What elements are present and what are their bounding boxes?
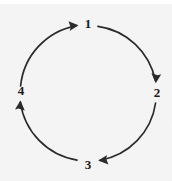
arc-2-to-3: [100, 103, 156, 160]
arc-1-to-2: [98, 26, 155, 80]
arrowhead-to-3-icon: [98, 155, 108, 165]
stage-label-2: 2: [150, 86, 164, 99]
cycle-diagram-figure: 1 2 3 4: [0, 0, 172, 181]
arrowhead-to-1-icon: [69, 21, 79, 31]
stage-label-3: 3: [81, 158, 95, 171]
arrowhead-to-4-icon: [15, 100, 25, 110]
arrowhead-to-2-icon: [151, 73, 161, 83]
stage-label-1: 1: [81, 17, 95, 30]
arc-4-to-1: [21, 26, 76, 86]
arc-3-to-4: [20, 102, 77, 160]
stage-label-4: 4: [14, 84, 28, 97]
